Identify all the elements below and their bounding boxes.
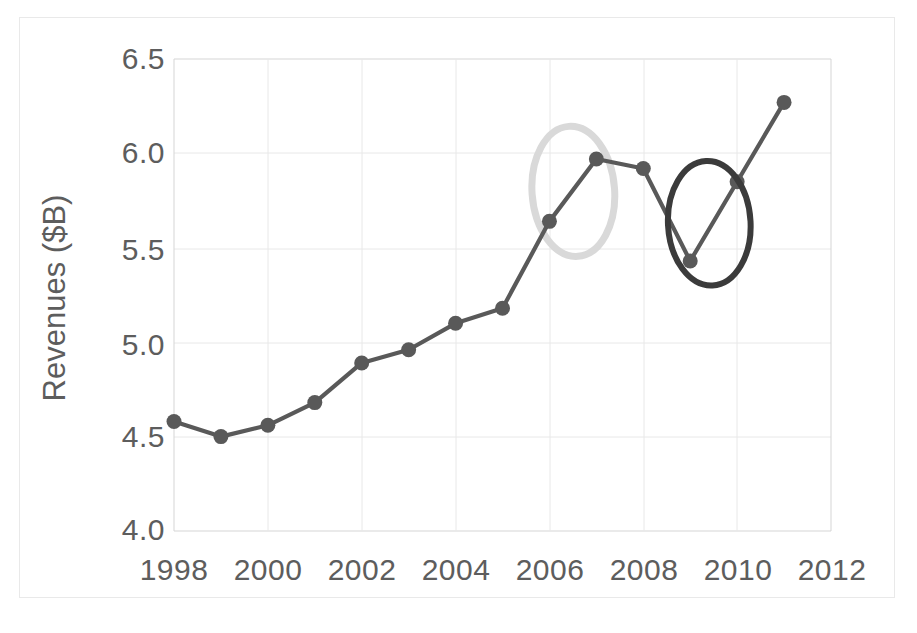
grid-lines bbox=[174, 59, 831, 531]
data-point-2011 bbox=[777, 95, 792, 110]
data-point-1999 bbox=[213, 429, 228, 444]
data-point-1998 bbox=[167, 414, 182, 429]
chart-container: Revenues ($B) 6.5 6.0 5.5 5.0 4.5 4.0 19… bbox=[0, 0, 917, 633]
plot-area bbox=[0, 0, 917, 633]
data-point-2006 bbox=[542, 214, 557, 229]
data-point-2000 bbox=[260, 418, 275, 433]
data-point-markers bbox=[167, 95, 792, 444]
data-point-2007 bbox=[589, 152, 604, 167]
data-point-2004 bbox=[448, 316, 463, 331]
data-point-2008 bbox=[636, 161, 651, 176]
data-point-2001 bbox=[307, 395, 322, 410]
data-point-2002 bbox=[354, 355, 369, 370]
data-point-2009 bbox=[683, 254, 698, 269]
data-point-2003 bbox=[401, 342, 416, 357]
data-point-2005 bbox=[495, 301, 510, 316]
